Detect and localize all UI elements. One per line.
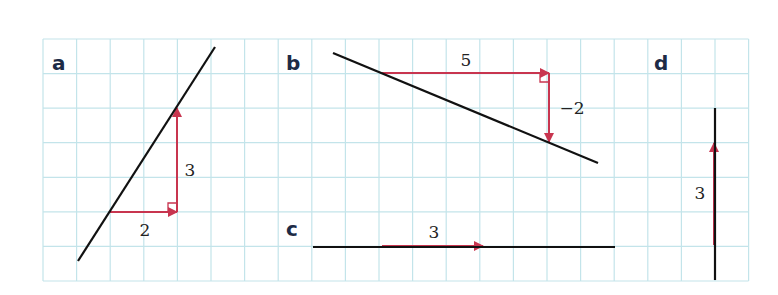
- panel-d: d3: [654, 51, 715, 280]
- vector-label: 3: [185, 160, 196, 180]
- right-angle-marker: [168, 203, 177, 212]
- vector-label: 5: [461, 50, 472, 70]
- gradient-diagram: a23b5−2c3d3: [0, 0, 778, 295]
- vector-label: −2: [559, 98, 584, 118]
- panel-label-b: b: [286, 51, 300, 75]
- panel-c: c3: [286, 217, 615, 247]
- vector-label: 3: [429, 222, 440, 242]
- panel-label-c: c: [286, 217, 298, 241]
- panel-label-a: a: [52, 51, 66, 75]
- vector-label: 2: [140, 220, 151, 240]
- grid: [43, 39, 749, 281]
- panel-b: b5−2: [286, 50, 598, 163]
- right-angle-marker: [540, 73, 549, 82]
- vector-label: 3: [695, 183, 706, 203]
- panel-label-d: d: [654, 51, 668, 75]
